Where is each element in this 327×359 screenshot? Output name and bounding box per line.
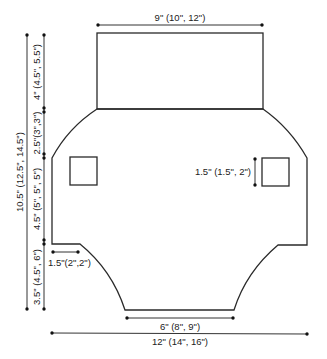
label-total-width: 12" (14", 16") [152,336,208,347]
label-top-height: 4" (4.5", 5.5") [31,44,42,100]
left-pocket [70,157,97,185]
label-bottom-width: 6" (8", 9") [160,321,200,332]
dimension-pocket: 1.5" (1.5", 2") [195,157,257,186]
garment-outline [52,33,307,310]
dimension-notch-width: 1.5"(2",2") [48,250,91,268]
schematic-diagram: 9" (10", 12") 10.5" (12.5", 14.5") 4" (4… [0,0,327,359]
label-pocket-size: 1.5" (1.5", 2") [195,166,251,177]
label-bottom-height: 3.5" (4.5", 6") [31,249,42,305]
dimension-segments: 4" (4.5", 5.5") 2.5"(3",3") 4.5" (5", 5"… [31,33,46,310]
right-pocket [262,158,289,186]
label-top-width: 9" (10", 12") [155,12,206,23]
dimension-top-width: 9" (10", 12") [96,12,263,27]
label-shoulder-height: 2.5"(3",3") [31,112,42,155]
top-panel [97,33,263,109]
label-side-height: 4.5" (5", 5", 5") [31,168,42,230]
dimension-total-height: 10.5" (12.5", 14.5") [14,33,29,310]
dimension-bottom-width: 6" (8", 9") [125,316,234,332]
label-notch-width: 1.5"(2",2") [48,257,91,268]
label-total-height: 10.5" (12.5", 14.5") [14,132,25,212]
dimension-total-width: 12" (14", 16") [50,331,308,347]
body-panel [52,109,307,310]
